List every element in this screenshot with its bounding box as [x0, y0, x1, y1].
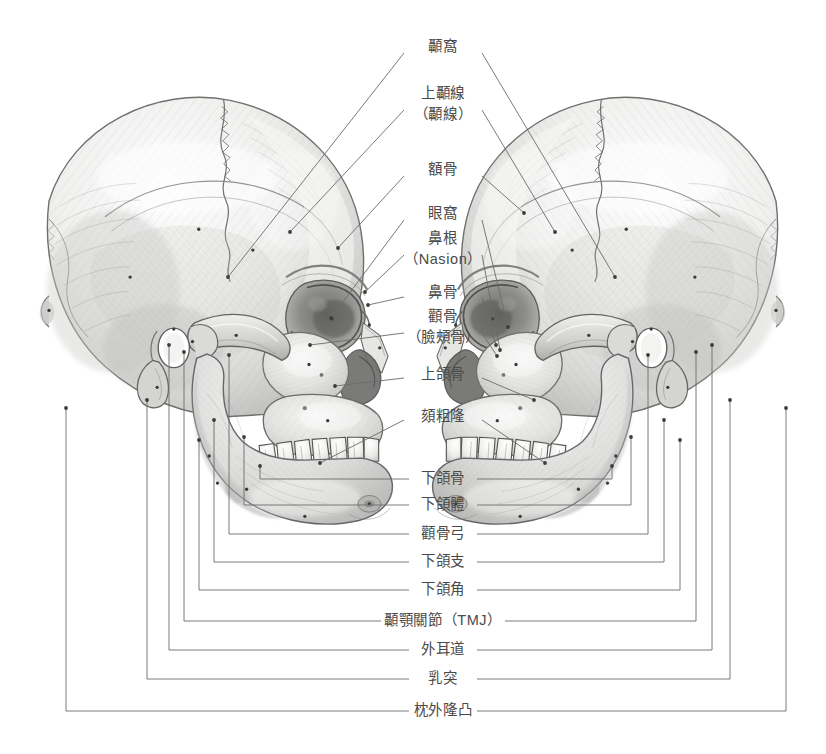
anchor-dot [532, 398, 536, 402]
label-text-primary: 外耳道 [421, 640, 465, 660]
anchor-dot [242, 435, 246, 439]
anchor-dot [167, 343, 171, 347]
label-text-primary: 顴骨 [407, 306, 480, 327]
label-text-primary: 鼻骨 [428, 283, 457, 303]
label-external-acoustic-meatus: 外耳道 [421, 640, 465, 660]
label-text-primary: 枕外隆凸 [414, 701, 472, 721]
anchor-dot [629, 435, 633, 439]
label-text-primary: 下頜角 [421, 580, 465, 600]
label-text-primary: 下頜支 [421, 552, 465, 572]
anchor-dot [182, 350, 186, 354]
figure-canvas: 顳窩上顳線（顳線）額骨眼窩鼻根（Nasion）鼻骨顴骨（臉頰骨）上頜骨頦粗隆下頜… [0, 0, 826, 754]
label-text-primary: 下頜骨 [421, 469, 465, 489]
anchor-dot [64, 406, 68, 410]
label-text-secondary: （Nasion） [404, 249, 482, 270]
anchor-dot [495, 354, 499, 358]
label-body-of-mandible: 下頜體 [421, 495, 465, 515]
label-text-primary: 鼻根 [404, 228, 482, 249]
anchor-dot [506, 325, 510, 329]
label-mastoid-process: 乳突 [428, 669, 457, 689]
anchor-dot [728, 398, 732, 402]
anchor-dot [522, 211, 526, 215]
label-zygomatic-bone: 顴骨（臉頰骨） [407, 306, 480, 348]
anchor-dot [366, 303, 370, 307]
anchor-dot [145, 398, 149, 402]
label-text-primary: 額骨 [428, 160, 457, 180]
label-angle-of-mandible: 下頜角 [421, 580, 465, 600]
label-text-primary: 上頜骨 [421, 365, 465, 385]
anchor-dot [226, 275, 230, 279]
label-frontal-bone: 額骨 [428, 160, 457, 180]
anchor-dot [333, 384, 337, 388]
label-text-primary: 頦粗隆 [421, 407, 465, 427]
label-nasion: 鼻根（Nasion） [404, 228, 482, 270]
label-orbit: 眼窩 [428, 204, 457, 224]
label-mental-protuberance: 頦粗隆 [421, 407, 465, 427]
anchor-dot [662, 418, 666, 422]
anchor-dot [288, 230, 292, 234]
anchor-dot [498, 348, 502, 352]
right-skull-illustration [433, 97, 786, 524]
anchor-dot [227, 353, 231, 357]
left-skull-illustration [40, 97, 393, 524]
label-text-secondary: （顳線） [414, 104, 472, 125]
anchor-dot [543, 461, 547, 465]
anchor-dot [553, 230, 557, 234]
anchor-dot [694, 350, 698, 354]
anchor-dot [710, 343, 714, 347]
label-text-primary: 顴骨弓 [421, 524, 465, 544]
label-mandible: 下頜骨 [421, 469, 465, 489]
label-text-primary: 眼窩 [428, 204, 457, 224]
label-text-primary: 下頜體 [421, 495, 465, 515]
anchor-dot [212, 418, 216, 422]
anchor-dot [258, 464, 262, 468]
leader-nasal-bone-left [368, 297, 404, 305]
label-nasal-bone: 鼻骨 [428, 283, 457, 303]
label-tmj: 顳顎關節（TMJ） [384, 611, 502, 631]
label-zygomatic-arch: 顴骨弓 [421, 524, 465, 544]
anchor-dot [363, 290, 367, 294]
anchor-dot [610, 464, 614, 468]
label-text-secondary: （臉頰骨） [407, 327, 480, 348]
anchor-dot [613, 275, 617, 279]
leader-nasion-left [365, 255, 404, 292]
anchor-dot [678, 438, 682, 442]
anchor-dot [329, 316, 333, 320]
label-text-primary: 乳突 [428, 669, 457, 689]
label-ramus-of-mandible: 下頜支 [421, 552, 465, 572]
anchor-dot [197, 438, 201, 442]
anchor-dot [308, 343, 312, 347]
label-temporal-fossa: 顳窩 [428, 37, 457, 57]
anchor-dot [646, 353, 650, 357]
label-text-primary: 顳顎關節（TMJ） [384, 611, 502, 631]
anchor-dot [336, 246, 340, 250]
label-text-primary: 上顳線 [414, 83, 472, 104]
anchor-dot [784, 406, 788, 410]
anchor-dot [494, 343, 498, 347]
anchor-dot [318, 461, 322, 465]
label-text-primary: 顳窩 [428, 37, 457, 57]
label-external-occipital-protuberance: 枕外隆凸 [414, 701, 472, 721]
label-maxilla: 上頜骨 [421, 365, 465, 385]
label-superior-temporal-line: 上顳線（顳線） [414, 83, 472, 125]
